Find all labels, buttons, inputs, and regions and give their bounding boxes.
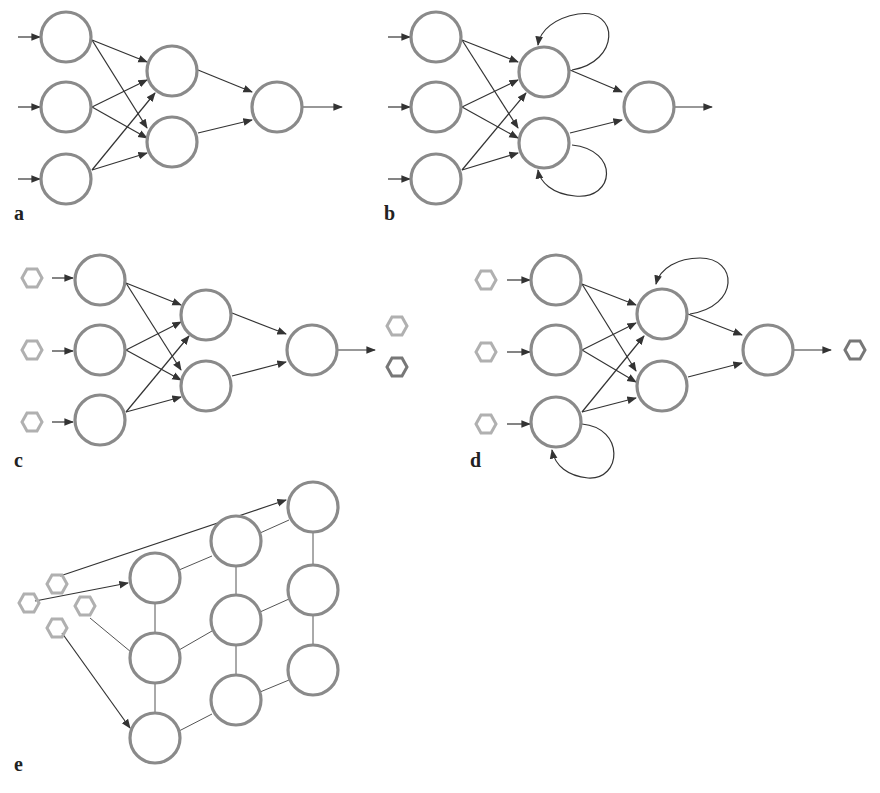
panel-label-d: d — [470, 449, 481, 472]
panel-c-nodes — [75, 255, 337, 445]
panel-label-e: e — [14, 753, 23, 776]
panel-label-a: a — [14, 202, 24, 225]
panel-label-c: c — [14, 449, 23, 472]
input-hexagons — [19, 269, 496, 637]
panel-b-nodes — [411, 12, 674, 204]
panel-e-grid-links — [90, 520, 313, 731]
panel-label-b: b — [384, 202, 395, 225]
panel-d-nodes — [531, 255, 793, 447]
neural-network-diagram — [0, 0, 880, 793]
panel-a-nodes — [41, 12, 302, 204]
panel-e-nodes — [130, 482, 338, 763]
